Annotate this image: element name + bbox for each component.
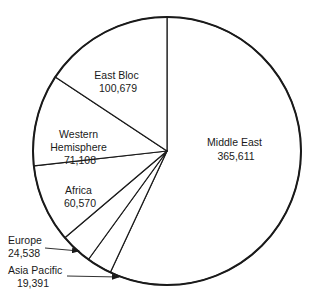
asia-pacific-arrow [67, 276, 119, 277]
label-east-bloc: East Bloc 100,679 [94, 69, 141, 94]
label-europe: Europe 24,538 [8, 234, 45, 259]
label-africa: Africa 60,570 [64, 184, 96, 209]
pie-chart: Middle East 365,611 East Bloc 100,679 We… [0, 0, 315, 299]
label-asia-pacific: Asia Pacific [8, 264, 62, 276]
label-asia-pacific-value: 19,391 [17, 277, 49, 289]
